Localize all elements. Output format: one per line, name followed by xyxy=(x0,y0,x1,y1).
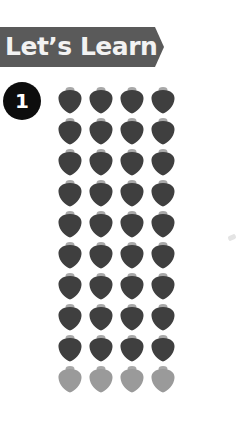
strawberry-icon xyxy=(118,303,149,334)
strawberry-icon xyxy=(118,179,149,210)
strawberry-icon xyxy=(149,148,180,179)
strawberry-row xyxy=(56,179,180,210)
strawberry-icon xyxy=(149,272,180,303)
strawberry-icon xyxy=(118,117,149,148)
strawberry-icon xyxy=(149,303,180,334)
exercise-number-badge: 1 xyxy=(3,82,41,120)
strawberry-icon xyxy=(149,365,180,396)
section-title: Let’s Learn xyxy=(5,30,157,64)
strawberry-icon xyxy=(87,365,118,396)
strawberry-row xyxy=(56,334,180,365)
strawberry-icon xyxy=(56,86,87,117)
strawberry-icon xyxy=(56,272,87,303)
strawberry-icon xyxy=(87,272,118,303)
strawberry-icon xyxy=(149,334,180,365)
strawberry-icon xyxy=(56,334,87,365)
strawberry-icon xyxy=(149,241,180,272)
strawberry-icon xyxy=(87,303,118,334)
strawberry-icon xyxy=(56,117,87,148)
strawberry-row xyxy=(56,303,180,334)
strawberry-icon xyxy=(149,210,180,241)
strawberry-row xyxy=(56,272,180,303)
strawberry-row xyxy=(56,365,180,396)
strawberry-icon xyxy=(118,365,149,396)
strawberry-icon xyxy=(118,334,149,365)
strawberry-row xyxy=(56,117,180,148)
strawberry-icon xyxy=(87,148,118,179)
strawberry-counting-grid xyxy=(56,86,180,396)
strawberry-row xyxy=(56,148,180,179)
strawberry-row xyxy=(56,210,180,241)
strawberry-icon xyxy=(118,210,149,241)
strawberry-icon xyxy=(56,179,87,210)
strawberry-icon xyxy=(56,210,87,241)
strawberry-icon xyxy=(149,86,180,117)
strawberry-icon xyxy=(118,148,149,179)
strawberry-icon xyxy=(87,86,118,117)
page-speck xyxy=(227,234,236,242)
strawberry-row xyxy=(56,241,180,272)
strawberry-icon xyxy=(118,86,149,117)
strawberry-icon xyxy=(87,210,118,241)
strawberry-icon xyxy=(56,365,87,396)
strawberry-icon xyxy=(87,241,118,272)
strawberry-icon xyxy=(149,179,180,210)
strawberry-icon xyxy=(87,179,118,210)
exercise-number: 1 xyxy=(15,89,29,113)
lets-learn-banner: Let’s Learn xyxy=(0,27,164,67)
strawberry-icon xyxy=(87,334,118,365)
strawberry-icon xyxy=(56,241,87,272)
strawberry-icon xyxy=(87,117,118,148)
strawberry-icon xyxy=(149,117,180,148)
strawberry-icon xyxy=(56,148,87,179)
strawberry-icon xyxy=(118,272,149,303)
strawberry-icon xyxy=(56,303,87,334)
strawberry-icon xyxy=(118,241,149,272)
strawberry-row xyxy=(56,86,180,117)
